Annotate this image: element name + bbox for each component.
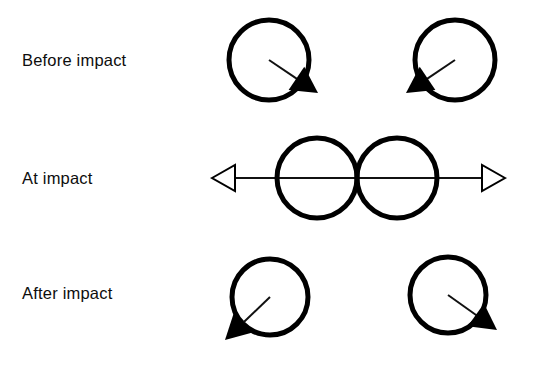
collision-diagram-canvas: Before impact At impact After impac xyxy=(0,0,546,374)
row-label-after-impact: After impact xyxy=(22,284,113,302)
collision-diagram-figure: Before impact At impact After impac xyxy=(0,0,546,374)
row-label-before-impact: Before impact xyxy=(22,51,127,69)
row-label-at-impact: At impact xyxy=(22,169,93,187)
